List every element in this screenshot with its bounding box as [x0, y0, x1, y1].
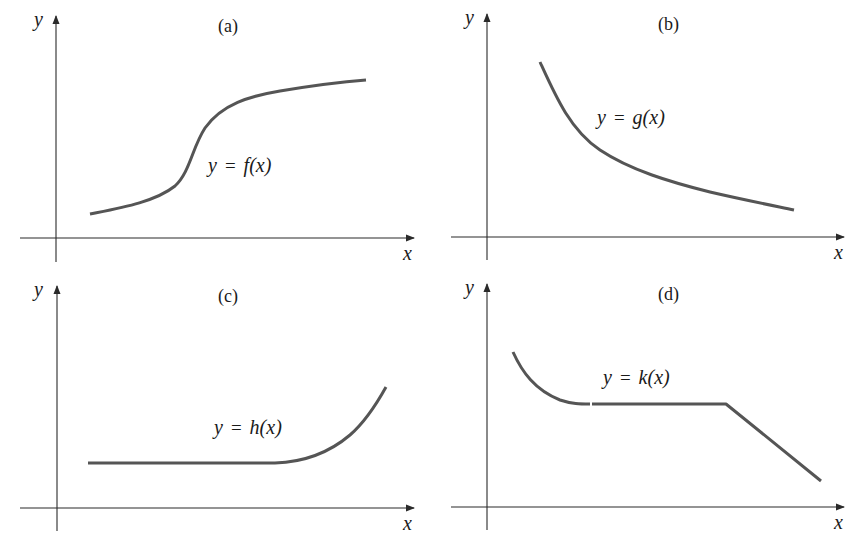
- x-axis-label: x: [833, 241, 843, 263]
- curve-k-segment-2: [592, 404, 821, 481]
- curve-f: [90, 80, 366, 214]
- panel-label: (d): [658, 284, 679, 305]
- equation-label: y=k(x): [601, 366, 670, 389]
- y-axis-label: y: [463, 6, 474, 29]
- function-graphs-figure: y x (a) y=f(x) y x (b) y=g(x) y x (c) y=…: [0, 0, 852, 534]
- x-axis-label: x: [833, 511, 843, 533]
- panel-c: y x (c) y=h(x): [20, 278, 414, 534]
- y-axis-label: y: [463, 276, 474, 299]
- equation-label: y=h(x): [212, 416, 282, 439]
- panel-label: (a): [218, 16, 238, 37]
- curve-k-segment-1: [513, 352, 590, 404]
- equation-label: y=g(x): [595, 106, 665, 129]
- curve-g: [540, 62, 794, 210]
- panel-d: y x (d) y=k(x): [451, 276, 844, 533]
- panel-a: y x (a) y=f(x): [20, 8, 414, 264]
- y-axis-label: y: [32, 8, 43, 31]
- x-axis-label: x: [402, 512, 412, 534]
- panel-label: (c): [218, 286, 238, 307]
- panel-b: y x (b) y=g(x): [451, 6, 844, 263]
- y-axis-label: y: [32, 278, 43, 301]
- equation-label: y=f(x): [206, 154, 272, 177]
- panel-label: (b): [658, 14, 679, 35]
- x-axis-label: x: [402, 242, 412, 264]
